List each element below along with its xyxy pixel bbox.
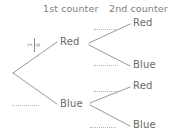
branch-blue-to-blue [90, 105, 130, 126]
node-level2-red-blue: Blue [133, 59, 156, 70]
node-level2-blue-blue: Blue [133, 119, 156, 130]
branch-red-to-blue [89, 45, 130, 66]
fraction-numerator: 3 [27, 38, 33, 52]
probability-root-red: 3 6 [27, 38, 41, 52]
blank-root-blue-probability[interactable] [12, 105, 39, 106]
node-level2-red-red: Red [133, 17, 153, 28]
blank-blue-blue-probability[interactable] [90, 127, 116, 128]
header-1st-counter: 1st counter [43, 3, 98, 14]
node-level1-blue: Blue [60, 98, 83, 109]
node-level2-blue-red: Red [133, 80, 153, 91]
blank-red-blue-probability[interactable] [94, 65, 118, 66]
branch-red-to-red [89, 24, 130, 43]
branch-blue-to-red [90, 87, 130, 103]
blank-blue-red-probability[interactable] [94, 91, 118, 92]
node-level1-red: Red [60, 36, 80, 47]
blank-red-red-probability[interactable] [94, 29, 118, 30]
header-2nd-counter: 2nd counter [109, 3, 168, 14]
branch-root-to-blue [13, 73, 57, 104]
fraction-denominator: 6 [35, 38, 41, 52]
